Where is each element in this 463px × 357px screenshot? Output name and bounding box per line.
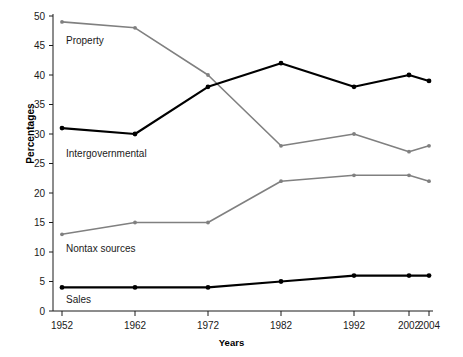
series-line [62, 276, 429, 288]
y-tick-label: 25 [34, 158, 46, 169]
data-point [427, 273, 432, 278]
data-point [60, 232, 64, 236]
y-tick-label: 45 [34, 40, 46, 51]
y-tick-label: 15 [34, 217, 46, 228]
data-point [206, 84, 211, 89]
data-point [407, 73, 412, 78]
series-label-intergovernmental: Intergovernmental [66, 148, 147, 159]
data-point [279, 279, 284, 284]
x-tick-label: 1952 [51, 320, 74, 331]
x-tick-label: 1982 [270, 320, 293, 331]
y-tick-label: 30 [34, 129, 46, 140]
x-axis: 1952196219721982199220022004 [51, 311, 441, 331]
data-point [133, 26, 137, 30]
data-point [60, 20, 64, 24]
data-point [427, 144, 431, 148]
series-label-property: Property [66, 35, 104, 46]
data-point [133, 221, 137, 225]
y-axis: 05101520253035404550 [34, 11, 53, 317]
data-point [279, 61, 284, 66]
data-point [427, 179, 431, 183]
x-tick-label: 1972 [197, 320, 220, 331]
y-tick-label: 50 [34, 11, 46, 22]
data-point [407, 150, 411, 154]
line-chart: Percentages Years 05101520253035404550 1… [0, 0, 463, 357]
y-tick-label: 5 [39, 276, 45, 287]
data-point [206, 221, 210, 225]
data-point [279, 144, 283, 148]
x-tick-label: 1962 [124, 320, 147, 331]
y-tick-label: 35 [34, 99, 46, 110]
data-point [352, 173, 356, 177]
y-tick-label: 20 [34, 188, 46, 199]
series-label-group: PropertyIntergovernmentalNontax sourcesS… [66, 35, 147, 305]
data-point [407, 173, 411, 177]
series-label-sales: Sales [66, 294, 91, 305]
data-point [352, 84, 357, 89]
data-point [352, 132, 356, 136]
data-point [206, 73, 210, 77]
data-point [407, 273, 412, 278]
data-point [427, 79, 432, 84]
data-point [133, 285, 138, 290]
y-tick-label: 40 [34, 70, 46, 81]
plot-area: 05101520253035404550 1952196219721982199… [0, 0, 463, 357]
series-line [62, 175, 429, 234]
data-point [352, 273, 357, 278]
data-point [206, 285, 211, 290]
y-tick-label: 10 [34, 247, 46, 258]
data-point [60, 126, 65, 131]
series-line [62, 63, 429, 134]
x-tick-label: 1992 [343, 320, 366, 331]
data-point [279, 179, 283, 183]
y-tick-label: 0 [39, 306, 45, 317]
data-point [133, 132, 138, 137]
series-label-nontax-sources: Nontax sources [66, 243, 135, 254]
data-point [60, 285, 65, 290]
x-tick-label: 2004 [418, 320, 441, 331]
